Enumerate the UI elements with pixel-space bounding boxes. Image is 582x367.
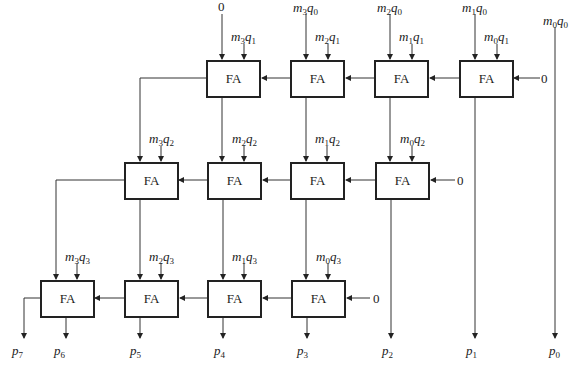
- full-adder-r1-c3: FA: [374, 60, 429, 98]
- output-p4: p4: [214, 344, 225, 360]
- output-p0: p0: [549, 344, 560, 360]
- partial-product-label: m0q3: [316, 250, 341, 266]
- full-adder-r1-c1: FA: [206, 60, 261, 98]
- partial-product-label: m2q2: [232, 132, 257, 148]
- top-input-label: m2q0: [377, 1, 402, 17]
- full-adder-r3-c1: FA: [40, 280, 95, 318]
- full-adder-r3-c3: FA: [207, 280, 262, 318]
- partial-product-label: m1q1: [399, 30, 424, 46]
- partial-product-label: m2q3: [149, 250, 174, 266]
- output-p7: p7: [12, 344, 23, 360]
- full-adder-r2-c1: FA: [124, 162, 179, 200]
- output-p5: p5: [130, 344, 141, 360]
- full-adder-r1-c4: FA: [459, 60, 514, 98]
- top-input-label: m1q0: [462, 1, 487, 17]
- partial-product-label: m1q2: [315, 132, 340, 148]
- full-adder-r2-c4: FA: [375, 162, 430, 200]
- full-adder-r3-c4: FA: [291, 280, 346, 318]
- partial-product-label: m2q1: [315, 30, 340, 46]
- full-adder-r3-c2: FA: [124, 280, 179, 318]
- carry-in-zero: 0: [457, 174, 464, 187]
- partial-product-label: m0q1: [484, 30, 509, 46]
- output-p1: p1: [466, 344, 477, 360]
- carry-in-zero: 0: [541, 72, 548, 85]
- partial-product-label: m3q3: [65, 250, 90, 266]
- partial-product-label: m3q2: [149, 132, 174, 148]
- top-input-label: 0: [218, 0, 225, 13]
- full-adder-r2-c3: FA: [290, 162, 345, 200]
- m0q0-label: m0q0: [543, 14, 568, 30]
- full-adder-r1-c2: FA: [290, 60, 345, 98]
- output-p6: p6: [54, 344, 65, 360]
- output-p2: p2: [382, 344, 393, 360]
- full-adder-r2-c2: FA: [207, 162, 262, 200]
- output-p3: p3: [297, 344, 308, 360]
- top-input-label: m3q0: [293, 1, 318, 17]
- partial-product-label: m0q2: [400, 132, 425, 148]
- carry-in-zero: 0: [373, 292, 380, 305]
- partial-product-label: m3q1: [231, 30, 256, 46]
- partial-product-label: m1q3: [232, 250, 257, 266]
